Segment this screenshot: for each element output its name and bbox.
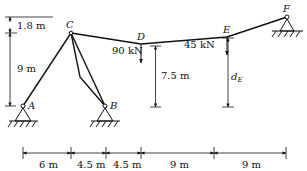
diagram-canvas (0, 0, 307, 171)
node-label-E: E (223, 25, 230, 35)
node-label-A: A (28, 101, 35, 111)
dim-label-7-5m: 7.5 m (161, 71, 190, 81)
member-CB-outer (71, 33, 105, 106)
dim-label-span-4: 9 m (170, 160, 189, 170)
node-label-B: B (110, 101, 117, 111)
load-label-D: 90 kN (112, 46, 143, 56)
load-label-E: 45 kN (184, 40, 215, 50)
bottom-dimensions (23, 147, 286, 159)
dim-label-span-2: 4.5 m (77, 160, 106, 170)
support-F (272, 19, 303, 37)
dim-label-1-8m: 1.8 m (17, 21, 46, 31)
cable-structure-diagram: C A B D E F 90 kN 45 kN 1.8 m 9 m 7.5 m … (0, 0, 307, 171)
dim-label-9m-vertical: 9 m (17, 64, 36, 74)
dim-7-5m (150, 46, 161, 107)
node-label-C: C (66, 20, 74, 30)
dim-label-span-3: 4.5 m (113, 160, 142, 170)
dim-label-span-5: 9 m (242, 160, 261, 170)
cable-CDEF (71, 17, 287, 44)
pin-C (69, 31, 73, 35)
dim-label-span-1: 6 m (39, 160, 58, 170)
structure-members (23, 17, 287, 106)
dim-label-dE: dE (231, 72, 243, 84)
node-label-D: D (137, 32, 145, 42)
node-label-F: F (283, 4, 290, 14)
